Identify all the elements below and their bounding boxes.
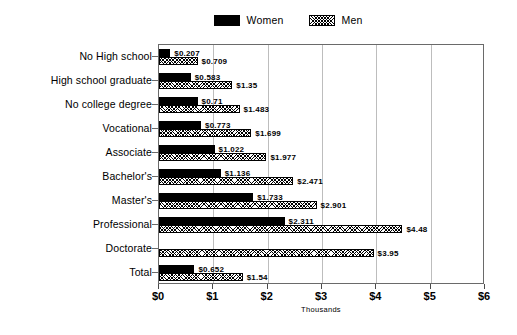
y-axis-label-bachelor-s: Bachelor's [102, 170, 152, 182]
legend-entry-women: Women [214, 14, 283, 26]
bar-women [159, 145, 215, 153]
bar-men [159, 177, 293, 185]
bar-women [159, 217, 285, 225]
y-axis-label-vocational: Vocational [103, 122, 152, 134]
bar-women [159, 121, 201, 129]
bar-row: $2.311$4.48 [159, 213, 483, 237]
legend-label-women: Women [246, 14, 283, 26]
y-axis-category-labels: No High schoolHigh school graduateNo col… [0, 44, 152, 284]
bar-value-label: $2.471 [297, 177, 323, 186]
bar-men [159, 153, 266, 161]
x-axis-tick [321, 284, 322, 289]
y-axis-label-doctorate: Doctorate [106, 242, 152, 254]
bar-women [159, 73, 191, 81]
x-axis-tick-label: $0 [152, 290, 164, 302]
legend-entry-men: Men [309, 14, 362, 26]
bar-value-label: $0.709 [202, 57, 228, 66]
x-axis-tick [375, 284, 376, 289]
legend-swatch-women-icon [214, 15, 240, 26]
bar-value-label: $1.699 [255, 129, 281, 138]
x-axis-tick-labels: $0$1$2$3$4$5$6 [0, 290, 517, 306]
bar-value-label: $4.48 [406, 225, 427, 234]
x-axis-tick [430, 284, 431, 289]
bar-row: $1.733$2.901 [159, 189, 483, 213]
bar-row: $0.652$1.54 [159, 261, 483, 285]
bar-men [159, 129, 251, 137]
bar-value-label: $1.54 [247, 273, 268, 282]
x-axis-tick-label: $2 [261, 290, 273, 302]
bar-value-label: $3.95 [378, 249, 399, 258]
bar-men [159, 225, 402, 233]
bar-men [159, 57, 198, 65]
y-axis-label-professional: Professional [93, 218, 152, 230]
bar-row: $1.022$1.977 [159, 141, 483, 165]
bar-men [159, 81, 232, 89]
bar-rows: $0.207$0.709$0.583$1.35$0.71$1.483$0.773… [159, 45, 483, 283]
y-axis-label-associate: Associate [106, 146, 152, 158]
bar-value-label: $1.35 [236, 81, 257, 90]
bar-women [159, 49, 170, 57]
bar-men [159, 249, 374, 257]
bar-women [159, 265, 194, 273]
bar-men [159, 105, 240, 113]
x-axis-tick-label: $5 [424, 290, 436, 302]
bar-row: $0.583$1.35 [159, 69, 483, 93]
chart-legend: Women Men [0, 14, 517, 26]
bar-men [159, 201, 317, 209]
legend-swatch-men-icon [309, 15, 335, 26]
y-axis-label-no-high-school: No High school [79, 50, 152, 62]
y-axis-label-total: Total [129, 266, 152, 278]
x-axis-tick [158, 284, 159, 289]
y-axis-label-no-college-degree: No college degree [65, 98, 152, 110]
bar-chart: Women Men No High schoolHigh school grad… [0, 0, 517, 335]
y-axis-label-high-school-graduate: High school graduate [51, 74, 152, 86]
bar-row: $3.95 [159, 237, 483, 261]
bar-row: $0.773$1.699 [159, 117, 483, 141]
bar-women [159, 97, 198, 105]
x-axis-tick [267, 284, 268, 289]
bar-value-label: $1.483 [244, 105, 270, 114]
y-axis-label-master-s: Master's [112, 194, 152, 206]
x-axis-tick-label: $3 [315, 290, 327, 302]
bar-row: $0.207$0.709 [159, 45, 483, 69]
bar-women [159, 169, 221, 177]
bar-value-label: $1.977 [270, 153, 296, 162]
x-axis-title: Thousands [158, 305, 484, 314]
x-axis-tick-label: $4 [369, 290, 381, 302]
bar-men [159, 273, 243, 281]
x-axis-tick [484, 284, 485, 289]
x-axis-tick-label: $1 [206, 290, 218, 302]
bar-value-label: $2.901 [321, 201, 347, 210]
bar-row: $0.71$1.483 [159, 93, 483, 117]
bar-women [159, 193, 253, 201]
x-axis-tick-label: $6 [478, 290, 490, 302]
legend-label-men: Men [341, 14, 362, 26]
bar-row: $1.136$2.471 [159, 165, 483, 189]
x-axis-tick [212, 284, 213, 289]
plot-area: $0.207$0.709$0.583$1.35$0.71$1.483$0.773… [158, 44, 484, 284]
